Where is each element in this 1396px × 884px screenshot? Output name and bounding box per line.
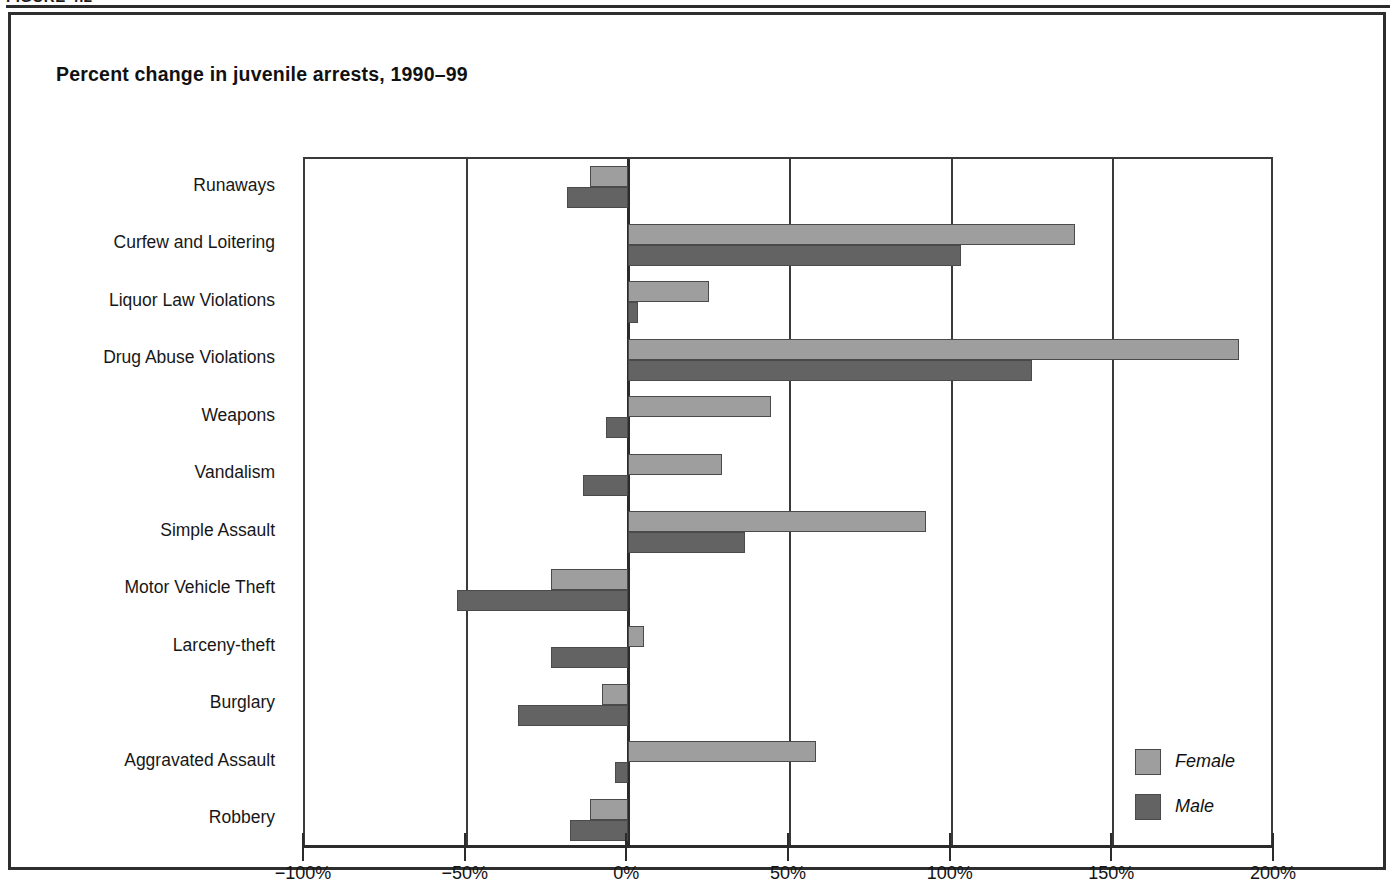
chart-row	[305, 677, 1271, 735]
bar-female	[628, 281, 709, 302]
x-tick-label: 150%	[1088, 863, 1134, 884]
x-tick	[302, 833, 304, 861]
x-tick	[1272, 833, 1274, 861]
legend-swatch-female-icon	[1135, 749, 1161, 775]
plot-area	[303, 157, 1273, 847]
category-label: Larceny-theft	[0, 635, 275, 656]
bar-male	[615, 762, 628, 783]
category-label: Weapons	[0, 405, 275, 426]
x-tick	[949, 833, 951, 861]
bar-male	[628, 360, 1032, 381]
legend-label-male: Male	[1175, 796, 1214, 817]
x-tick	[625, 833, 627, 861]
chart-legend: Female Male	[1135, 739, 1265, 829]
bar-female	[628, 396, 770, 417]
category-label: Robbery	[0, 807, 275, 828]
legend-label-female: Female	[1175, 751, 1235, 772]
bar-female	[590, 799, 629, 820]
legend-item-female: Female	[1135, 739, 1265, 784]
bar-female	[551, 569, 629, 590]
category-label: Vandalism	[0, 462, 275, 483]
category-label: Curfew and Loitering	[0, 232, 275, 253]
category-label: Drug Abuse Violations	[0, 347, 275, 368]
bar-male	[457, 590, 628, 611]
category-label: Liquor Law Violations	[0, 290, 275, 311]
category-label: Motor Vehicle Theft	[0, 577, 275, 598]
x-tick	[464, 833, 466, 861]
chart-title: Percent change in juvenile arrests, 1990…	[56, 63, 468, 86]
chart-row	[305, 217, 1271, 275]
bar-male	[518, 705, 628, 726]
figure-caption: FIGURE 4.2	[6, 0, 1390, 6]
x-tick-label: 0%	[613, 863, 639, 884]
chart-row	[305, 562, 1271, 620]
bar-male	[570, 820, 628, 841]
chart-row	[305, 447, 1271, 505]
category-label: Burglary	[0, 692, 275, 713]
category-label: Runaways	[0, 175, 275, 196]
x-tick-label: 100%	[927, 863, 973, 884]
legend-item-male: Male	[1135, 784, 1265, 829]
bar-female	[628, 511, 925, 532]
x-tick-label: 200%	[1250, 863, 1296, 884]
figure-panel: Percent change in juvenile arrests, 1990…	[8, 12, 1386, 870]
bar-female	[628, 454, 722, 475]
bar-male	[551, 647, 629, 668]
x-tick-label: 50%	[770, 863, 806, 884]
bar-female	[602, 684, 628, 705]
x-tick	[1110, 833, 1112, 861]
x-tick-label: −100%	[275, 863, 332, 884]
chart-row	[305, 504, 1271, 562]
legend-swatch-male-icon	[1135, 794, 1161, 820]
chart-row	[305, 274, 1271, 332]
bar-female	[590, 166, 629, 187]
bar-male	[583, 475, 628, 496]
chart-row	[305, 619, 1271, 677]
bar-male	[628, 245, 961, 266]
x-tick-label: −50%	[441, 863, 488, 884]
bar-male	[606, 417, 629, 438]
bar-male	[567, 187, 628, 208]
x-tick	[787, 833, 789, 861]
chart-row	[305, 389, 1271, 447]
chart-row	[305, 332, 1271, 390]
bar-male	[628, 532, 744, 553]
chart-row	[305, 159, 1271, 217]
bar-male	[628, 302, 638, 323]
bar-female	[628, 741, 816, 762]
bar-female	[628, 339, 1239, 360]
bar-female	[628, 224, 1074, 245]
chart-row	[305, 734, 1271, 792]
bar-female	[628, 626, 644, 647]
category-label: Aggravated Assault	[0, 750, 275, 771]
category-label: Simple Assault	[0, 520, 275, 541]
